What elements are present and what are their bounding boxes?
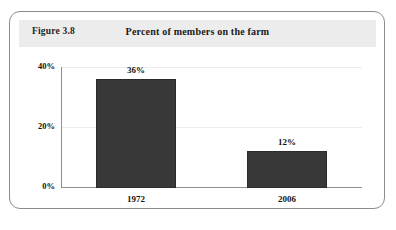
y-axis-tick-label: 20%	[10, 121, 55, 131]
bar-2006	[247, 151, 327, 188]
bar-1972	[96, 79, 176, 188]
x-axis-category-label-2006: 2006	[227, 194, 347, 204]
bar-value-label-2006: 12%	[227, 137, 347, 147]
y-axis-tick-label: 40%	[10, 61, 55, 71]
y-axis-line	[61, 67, 62, 188]
bar-value-label-1972: 36%	[76, 65, 196, 75]
y-axis-tick-label: 0%	[10, 181, 55, 191]
x-axis-category-label-1972: 1972	[76, 194, 196, 204]
figure-frame: Figure 3.8 Percent of members on the far…	[9, 11, 385, 209]
bar-chart-plot-area: 0%20%40%36%197212%2006	[10, 12, 386, 210]
